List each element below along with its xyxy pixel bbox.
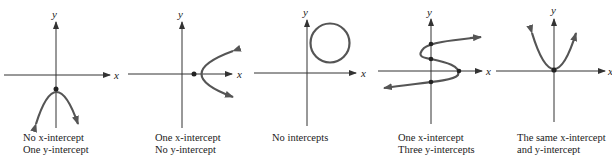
caption-s-curve: One x-intercept Three y-intercepts <box>398 132 475 156</box>
curve <box>311 24 350 63</box>
caption-line: One y-intercept <box>23 144 89 156</box>
x-axis-label: x <box>607 65 612 77</box>
x-axis-label: x <box>360 67 366 79</box>
curve <box>36 92 78 124</box>
x-axis-label: x <box>113 69 119 81</box>
y-axis-label: y <box>550 4 556 16</box>
panel-downward-parabola: x y <box>4 8 119 128</box>
caption-sideways-parabola: One x-intercept No y-intercept <box>155 132 221 156</box>
caption-line: No intercepts <box>272 132 328 144</box>
x-intercept-point <box>457 69 462 74</box>
caption-line: and y-intercept <box>517 144 606 156</box>
y-intercept-point <box>429 42 434 47</box>
y-axis-label: y <box>51 8 57 20</box>
x-axis-label: x <box>485 65 491 77</box>
curve-arrow <box>470 37 481 38</box>
panel-upward-parabola: x y <box>496 4 612 122</box>
origin-intercept-point <box>551 67 556 72</box>
y-intercept-point <box>429 57 434 62</box>
panel-sideways-parabola: x y <box>128 8 242 128</box>
caption-line: No y-intercept <box>155 144 221 156</box>
caption-downward-parabola: No x-intercept One y-intercept <box>23 132 89 156</box>
caption-line: Three y-intercepts <box>398 144 475 156</box>
caption-line: No x-intercept <box>23 132 89 144</box>
caption-line: One x-intercept <box>155 132 221 144</box>
x-intercept-point <box>192 72 197 77</box>
panel-s-curve: x y <box>378 6 491 124</box>
y-axis-label: y <box>426 6 432 18</box>
caption-line: The same x-intercept <box>517 132 606 144</box>
caption-circle: No intercepts <box>272 132 328 144</box>
y-axis-label: y <box>177 8 183 20</box>
y-axis-label: y <box>302 6 308 18</box>
caption-line: One x-intercept <box>398 132 475 144</box>
caption-upward-parabola: The same x-intercept and y-intercept <box>517 132 606 156</box>
panel-circle: x y <box>254 6 366 126</box>
x-axis-label: x <box>236 68 242 80</box>
y-intercept-point <box>54 87 59 92</box>
y-intercept-point <box>429 80 434 85</box>
